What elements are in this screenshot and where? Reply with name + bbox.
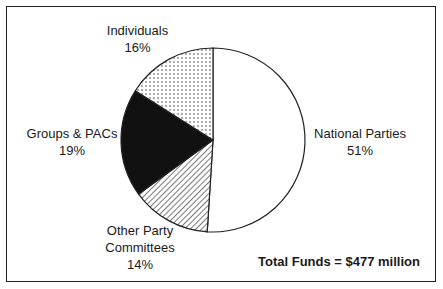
label-pct: 16% xyxy=(100,39,175,56)
label-individuals: Individuals 16% xyxy=(100,22,175,56)
label-name-line1: Other Party xyxy=(95,222,185,239)
label-other-party-committees: Other Party Committees 14% xyxy=(95,222,185,273)
total-funds-annotation: Total Funds = $477 million xyxy=(258,254,420,269)
label-pct: 51% xyxy=(305,142,415,159)
label-name: National Parties xyxy=(305,125,415,142)
label-name: Groups & PACs xyxy=(18,125,126,142)
pie-slice-national-parties xyxy=(207,48,305,232)
label-name-line2: Committees xyxy=(95,239,185,256)
label-groups-pacs: Groups & PACs 19% xyxy=(18,125,126,159)
label-pct: 19% xyxy=(18,142,126,159)
label-pct: 14% xyxy=(95,256,185,273)
label-name: Individuals xyxy=(100,22,175,39)
label-national-parties: National Parties 51% xyxy=(305,125,415,159)
